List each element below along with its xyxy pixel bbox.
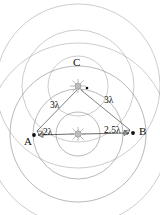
label-point-c: C xyxy=(73,57,80,68)
lower-source-marker xyxy=(70,127,86,141)
label-distance-upper-to-a: 3λ xyxy=(50,101,59,111)
label-distance-source-to-b: 2.5λ xyxy=(104,126,120,136)
label-point-b: B xyxy=(139,126,146,137)
point-marker-b xyxy=(131,131,135,135)
lower-wavefront-4 xyxy=(0,43,160,215)
wave-interference-figure: A B C 2λ 2.5λ 3λ 3λ xyxy=(0,0,160,215)
label-distance-upper-to-b: 3λ xyxy=(104,96,113,106)
upper-source-marker xyxy=(70,79,86,93)
point-marker-a xyxy=(32,133,36,137)
label-distance-source-to-a: 2λ xyxy=(43,128,52,138)
line-upper-to-a xyxy=(37,90,77,131)
label-point-a: A xyxy=(24,136,32,147)
lower-source-wavefronts xyxy=(0,43,160,215)
point-marker-c-dot xyxy=(86,87,89,90)
figure-canvas xyxy=(0,0,160,215)
